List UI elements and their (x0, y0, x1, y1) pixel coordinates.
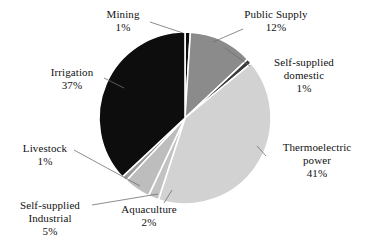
pie-label-livestock-name: Livestock (23, 142, 67, 154)
pie-label-irrigation-name: Irrigation (51, 66, 94, 78)
pie-label-aquaculture-name: Aquaculture (121, 203, 176, 215)
pie-label-self-supplied-domestic: Self-supplied domestic 1% (252, 56, 356, 95)
pie-label-public-supply-name: Public Supply (244, 8, 307, 20)
pie-label-mining-name: Mining (107, 8, 140, 20)
pie-label-livestock-value: 1% (8, 155, 82, 168)
pie-label-mining-value: 1% (88, 21, 158, 34)
pie-chart: Mining 1% Public Supply 12% Self-supplie… (0, 0, 371, 251)
pie-label-thermoelectric-power-value: 41% (268, 167, 366, 180)
pie-label-mining: Mining 1% (88, 8, 158, 34)
pie-label-irrigation: Irrigation 37% (30, 66, 114, 92)
pie-label-livestock: Livestock 1% (8, 142, 82, 168)
pie-label-public-supply-value: 12% (228, 21, 324, 34)
pie-label-thermoelectric-power-name: Thermoelectric (283, 141, 352, 153)
pie-slice-group (99, 32, 271, 204)
pie-label-self-supplied-industrial: Self-supplied Industrial 5% (2, 199, 98, 238)
pie-label-self-supplied-industrial-name: Self-supplied (20, 199, 80, 211)
pie-label-self-supplied-domestic-value: 1% (252, 82, 356, 95)
pie-label-self-supplied-domestic-name2: domestic (252, 69, 356, 82)
pie-label-public-supply: Public Supply 12% (228, 8, 324, 34)
pie-label-aquaculture: Aquaculture 2% (104, 203, 194, 229)
pie-label-thermoelectric-power: Thermoelectric power 41% (268, 141, 366, 180)
pie-label-self-supplied-industrial-value: 5% (2, 225, 98, 238)
pie-label-thermoelectric-power-name2: power (268, 154, 366, 167)
pie-label-irrigation-value: 37% (30, 79, 114, 92)
pie-label-self-supplied-industrial-name2: Industrial (2, 212, 98, 225)
pie-label-self-supplied-domestic-name: Self-supplied (274, 56, 334, 68)
pie-label-aquaculture-value: 2% (104, 216, 194, 229)
